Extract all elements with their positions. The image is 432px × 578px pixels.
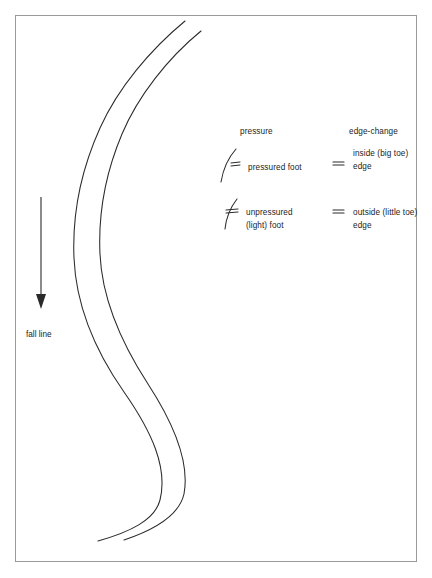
ski-track-line-outer (74, 21, 185, 541)
ski-track (74, 21, 201, 541)
legend-label-outside-edge-line2: edge (353, 220, 417, 233)
legend-label-outside-edge: outside (little toe) edge (353, 207, 417, 232)
fall-line-arrow (36, 197, 46, 309)
legend-label-unpressured-foot: unpressured (light) foot (246, 207, 293, 232)
legend-label-pressured-foot: pressured foot (248, 162, 302, 175)
legend-label-inside-edge-line1: inside (big toe) (353, 148, 408, 161)
legend-label-unpressured-foot-line1: unpressured (246, 207, 293, 220)
legend-label-inside-edge-line2: edge (353, 161, 408, 174)
ski-track-line-inner (100, 31, 201, 540)
equals-icon-outside-edge (333, 210, 344, 213)
legend-label-unpressured-foot-line2: (light) foot (246, 220, 293, 233)
legend-label-outside-edge-line1: outside (little toe) (353, 207, 417, 220)
pressured-foot-arc-icon (221, 149, 240, 182)
diagram-page: pressure edge-change pressured foot insi… (0, 0, 432, 578)
diagram-canvas (0, 0, 432, 578)
fall-line-arrowhead (36, 294, 46, 309)
equals-icon-inside-edge (333, 162, 344, 165)
fall-line-label: fall line (26, 330, 52, 339)
legend-heading-pressure: pressure (240, 126, 273, 139)
legend-label-inside-edge: inside (big toe) edge (353, 148, 408, 173)
unpressured-foot-arc-icon (225, 199, 238, 229)
legend-heading-edge-change: edge-change (349, 126, 398, 139)
